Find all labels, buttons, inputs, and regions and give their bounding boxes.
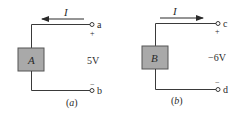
bottom-wire-b	[156, 69, 217, 90]
terminal-label-b: b	[97, 85, 102, 96]
circuit-figure: I A a b + 5V − (a) I B c d	[0, 0, 241, 117]
terminal-label-a: a	[97, 19, 102, 30]
voltage-label-a: 5V	[87, 55, 100, 66]
circuit-panel-a: I A a b + 5V − (a)	[18, 6, 102, 109]
caption-letter-b: b	[174, 95, 179, 106]
polarity-plus-a: +	[90, 29, 95, 38]
current-label-a: I	[63, 6, 69, 18]
polarity-minus-b: −	[215, 78, 220, 87]
terminal-b-icon	[90, 89, 94, 93]
terminal-d-icon	[216, 88, 220, 92]
top-wire-b	[156, 24, 217, 47]
terminal-a-icon	[90, 23, 94, 27]
top-wire-a	[32, 25, 91, 49]
polarity-plus-b: +	[215, 27, 220, 36]
caption-letter-a: a	[69, 97, 74, 108]
terminal-label-d: d	[223, 84, 228, 95]
terminal-c-icon	[216, 22, 220, 26]
element-label-a: A	[27, 54, 35, 66]
terminal-label-c: c	[223, 18, 228, 29]
caption-b: (b)	[171, 95, 183, 107]
voltage-label-b: −6V	[208, 52, 227, 63]
bottom-wire-a	[32, 71, 91, 91]
element-label-b: B	[151, 52, 158, 64]
circuit-panel-b: I B c d + −6V − (b)	[142, 5, 228, 107]
caption-a: (a)	[66, 97, 78, 109]
current-label-b: I	[172, 5, 178, 17]
polarity-minus-a: −	[90, 80, 95, 89]
